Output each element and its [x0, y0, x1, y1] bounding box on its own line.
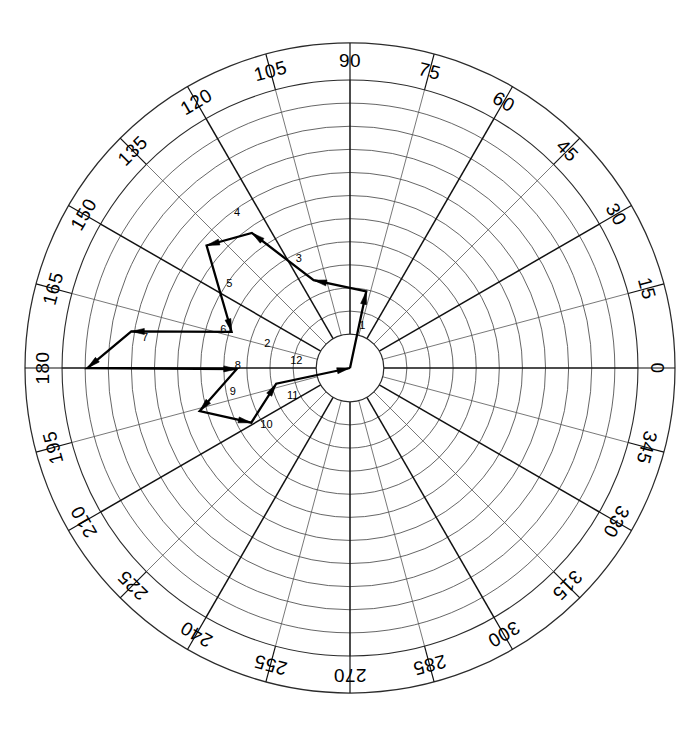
segment-number-label: 5 [226, 277, 232, 289]
traverse-arrowhead [314, 280, 327, 286]
polar-chart: 0153045607590105120135150165180195210225… [0, 0, 695, 730]
angular-axis-label: 90 [339, 50, 361, 71]
segment-number-label: 9 [230, 385, 236, 397]
angular-axis-label: 0 [647, 362, 668, 373]
angular-axis-label: 345 [633, 429, 662, 467]
radial-spoke [374, 392, 554, 572]
angular-axis-label: 285 [411, 651, 449, 680]
traverse-arrowhead [207, 239, 220, 245]
angular-axis-label: 270 [333, 665, 366, 686]
angular-axis-label: 15 [634, 275, 660, 302]
radial-spoke [379, 385, 599, 512]
segment-number-label: 12 [290, 354, 302, 366]
angular-axis-label: 60 [489, 87, 519, 116]
angular-axis-label: 255 [252, 651, 290, 680]
radial-spoke [374, 164, 554, 344]
traverse-arrowhead [238, 417, 251, 423]
polar-figure-root: 0153045607590105120135150165180195210225… [0, 0, 695, 730]
angular-axis-label: 30 [602, 199, 631, 229]
segment-number-label: 10 [260, 418, 272, 430]
angular-axis-label: 75 [416, 58, 443, 84]
segment-number-label: 7 [142, 331, 148, 343]
segment-number-label: 3 [296, 252, 302, 264]
angular-axis-label: 180 [32, 351, 53, 384]
angular-axis-label: 195 [39, 429, 68, 467]
angular-axis-label: 165 [39, 270, 68, 308]
radial-spoke [367, 119, 494, 339]
segment-number-label: 2 [264, 337, 270, 349]
segment-number-label: 1 [359, 319, 365, 331]
segment-number-label: 6 [220, 323, 226, 335]
traverse-arrowhead [361, 291, 367, 304]
segment-number-label: 4 [234, 206, 240, 218]
segment-number-label: 11 [287, 389, 298, 401]
radial-spoke [367, 397, 494, 617]
radial-spoke [379, 224, 599, 351]
segment-number-label: 8 [235, 359, 241, 371]
angular-axis-label: 105 [252, 57, 290, 86]
radial-spoke [101, 385, 321, 512]
